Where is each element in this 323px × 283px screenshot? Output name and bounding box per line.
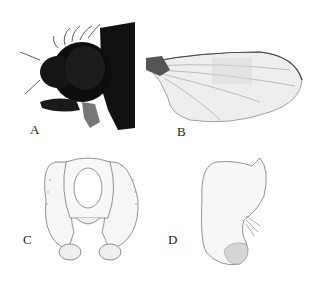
panel-a: A: [0, 0, 140, 140]
genitalia-posterior-drawing: [0, 140, 160, 283]
panel-label-b: B: [177, 124, 186, 140]
figure: A B: [0, 0, 323, 283]
panel-c: C: [0, 140, 160, 283]
genitalia-lateral-drawing: [160, 140, 323, 283]
wing-image: [140, 40, 323, 140]
panel-label-d: D: [168, 232, 177, 248]
fly-head-image: [0, 0, 140, 140]
panel-d: D: [160, 140, 323, 283]
panel-label-c: C: [23, 232, 32, 248]
panel-label-a: A: [30, 122, 39, 138]
panel-b: B: [140, 40, 323, 140]
